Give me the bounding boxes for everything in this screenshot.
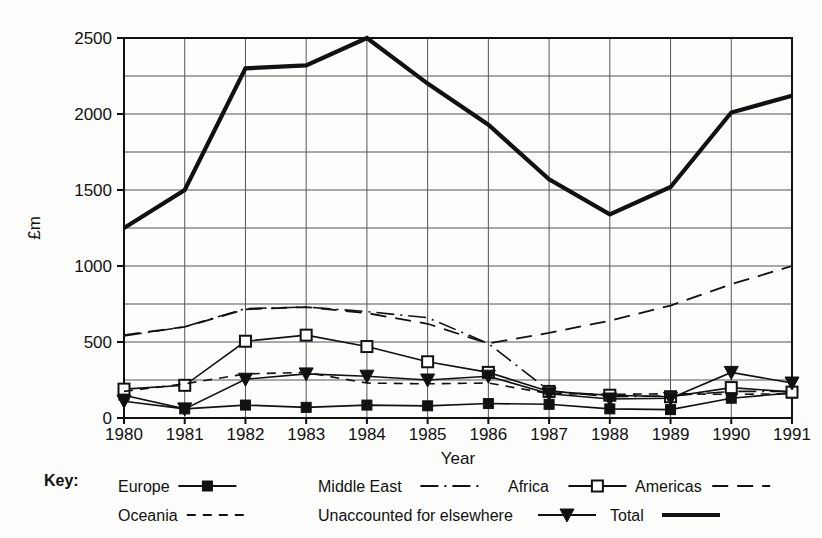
marker-open-square bbox=[301, 330, 312, 341]
legend-swatch bbox=[568, 481, 626, 492]
x-tick-label: 1989 bbox=[652, 425, 690, 444]
marker-open-square bbox=[422, 356, 433, 367]
marker-open-square bbox=[240, 336, 251, 347]
series-oceania bbox=[124, 372, 792, 394]
chart-container: 05001000150020002500£m198019811982198319… bbox=[0, 0, 822, 538]
x-tick-label: 1980 bbox=[105, 425, 143, 444]
series-total bbox=[124, 38, 792, 228]
gridlines bbox=[124, 38, 792, 418]
y-tick-label: 2000 bbox=[74, 105, 112, 124]
series-line bbox=[124, 393, 792, 410]
y-tick-label: 1500 bbox=[74, 181, 112, 200]
series-americas bbox=[124, 266, 792, 344]
y-axis: 05001000150020002500 bbox=[74, 29, 124, 428]
x-tick-label: 1991 bbox=[773, 425, 811, 444]
x-tick-label: 1987 bbox=[530, 425, 568, 444]
marker-filled-square bbox=[202, 481, 212, 491]
series-line bbox=[124, 335, 792, 397]
series-line bbox=[124, 372, 792, 394]
legend-item-label: Europe bbox=[118, 478, 170, 495]
legend-item-label: Americas bbox=[635, 478, 702, 495]
legend-item-label: Total bbox=[610, 507, 644, 524]
x-axis-title: Year bbox=[441, 449, 476, 468]
x-tick-label: 1983 bbox=[287, 425, 325, 444]
y-tick-label: 1000 bbox=[74, 257, 112, 276]
x-tick-label: 1988 bbox=[591, 425, 629, 444]
legend-item-label: Middle East bbox=[318, 478, 402, 495]
series-line bbox=[124, 266, 792, 344]
legend: Key:EuropeMiddle EastAfricaAmericasOcean… bbox=[44, 472, 770, 524]
y-tick-label: 2500 bbox=[74, 29, 112, 48]
y-axis-title: £m bbox=[25, 216, 44, 240]
x-tick-label: 1990 bbox=[712, 425, 750, 444]
series-unaccounted-for-elsewhere bbox=[117, 366, 799, 415]
marker-filled-square bbox=[240, 400, 250, 410]
x-tick-label: 1982 bbox=[227, 425, 265, 444]
marker-filled-square bbox=[362, 400, 372, 410]
marker-filled-square bbox=[423, 401, 433, 411]
x-tick-label: 1981 bbox=[166, 425, 204, 444]
marker-open-square bbox=[361, 341, 372, 352]
legend-item-label: Africa bbox=[508, 478, 549, 495]
legend-swatch bbox=[538, 509, 596, 522]
x-tick-label: 1985 bbox=[409, 425, 447, 444]
x-tick-label: 1984 bbox=[348, 425, 386, 444]
line-chart: 05001000150020002500£m198019811982198319… bbox=[0, 0, 822, 538]
legend-item-label: Unaccounted for elsewhere bbox=[318, 507, 513, 524]
y-tick-label: 500 bbox=[84, 333, 112, 352]
marker-open-square bbox=[119, 384, 130, 395]
legend-key-label: Key: bbox=[44, 472, 79, 489]
series-line bbox=[124, 38, 792, 228]
x-axis: 1980198119821983198419851986198719881989… bbox=[105, 418, 811, 444]
x-tick-label: 1986 bbox=[469, 425, 507, 444]
legend-swatch bbox=[178, 481, 236, 491]
marker-open-square bbox=[592, 481, 603, 492]
marker-filled-square bbox=[483, 399, 493, 409]
marker-open-square bbox=[726, 382, 737, 393]
marker-open-square bbox=[179, 380, 190, 391]
legend-item-label: Oceania bbox=[118, 507, 178, 524]
marker-filled-square bbox=[301, 402, 311, 412]
